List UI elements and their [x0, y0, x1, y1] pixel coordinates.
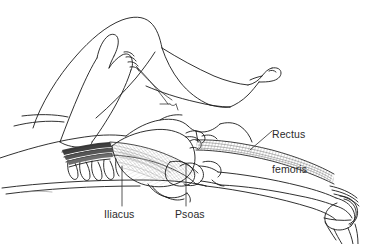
iliacus-muscle	[117, 147, 184, 185]
hip-surface-outline	[126, 115, 252, 142]
label-rectus-femoris-line2: femoris	[272, 164, 307, 176]
examiner-hand-outline	[60, 34, 139, 147]
label-iliacus: Iliacus	[104, 209, 134, 221]
hand-pointer-lines	[136, 66, 178, 110]
foot-outline	[230, 68, 281, 107]
label-rectus-femoris-line1: Rectus	[272, 129, 307, 141]
flexed-thigh-outline	[33, 17, 210, 128]
anatomy-illustration-figure: Rectus femoris Iliacus Psoas	[0, 0, 369, 244]
label-psoas: Psoas	[175, 209, 205, 221]
label-rectus-femoris: Rectus femoris	[272, 106, 307, 198]
